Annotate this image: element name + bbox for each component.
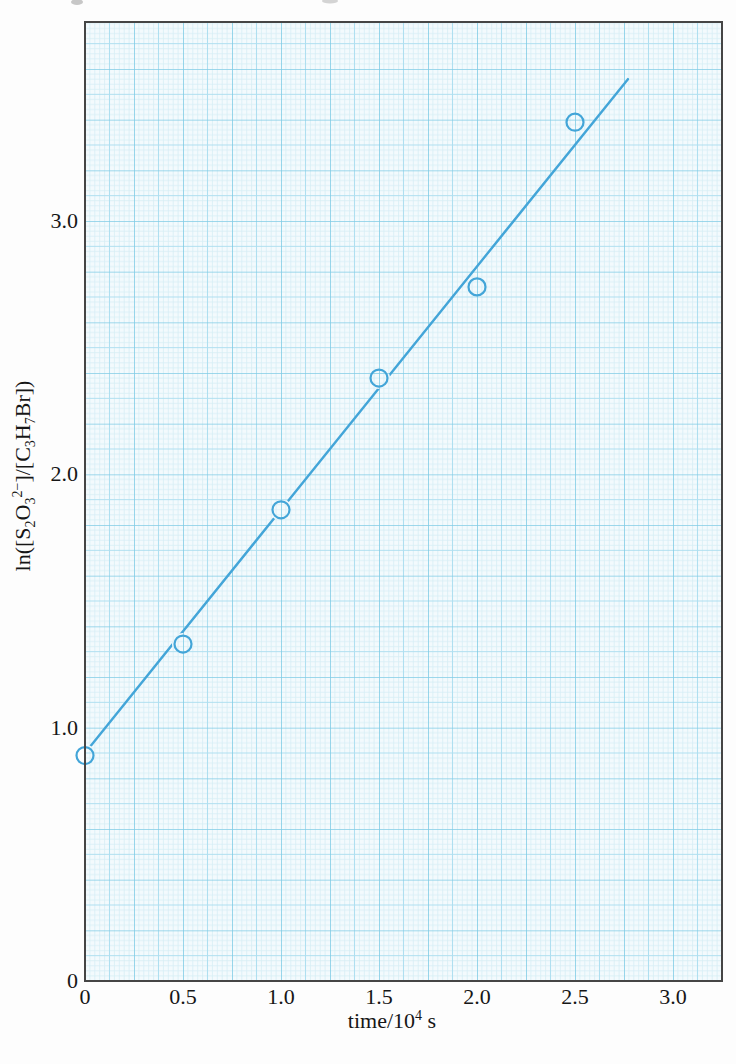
x-tick-label: 0 [80, 984, 91, 1009]
y-tick-label: 1.0 [51, 715, 79, 740]
scan-artifact [322, 0, 338, 4]
y-tick-label: 2.0 [51, 461, 79, 486]
plot-grid [85, 22, 722, 981]
x-axis-tick-labels: 00.51.01.52.02.53.0 [80, 984, 687, 1009]
y-tick-label: 3.0 [51, 208, 79, 233]
scatter-chart: 00.51.01.52.02.53.0 01.02.03.0 time/104 … [0, 0, 736, 1064]
x-tick-label: 2.0 [463, 984, 491, 1009]
x-tick-label: 0.5 [169, 984, 197, 1009]
x-tick-label: 3.0 [659, 984, 687, 1009]
x-tick-label: 1.0 [267, 984, 295, 1009]
x-tick-label: 2.5 [561, 984, 589, 1009]
y-tick-label: 0 [67, 968, 78, 993]
y-axis-tick-labels: 01.02.03.0 [51, 208, 79, 993]
x-tick-label: 1.5 [365, 984, 393, 1009]
scan-artifact [71, 0, 83, 5]
y-axis-label: ln([S2O32−]/[C3H7Br]) [10, 381, 38, 572]
x-axis-label: time/104 s [348, 1008, 436, 1033]
graph-paper-page: 00.51.01.52.02.53.0 01.02.03.0 time/104 … [0, 0, 736, 1064]
